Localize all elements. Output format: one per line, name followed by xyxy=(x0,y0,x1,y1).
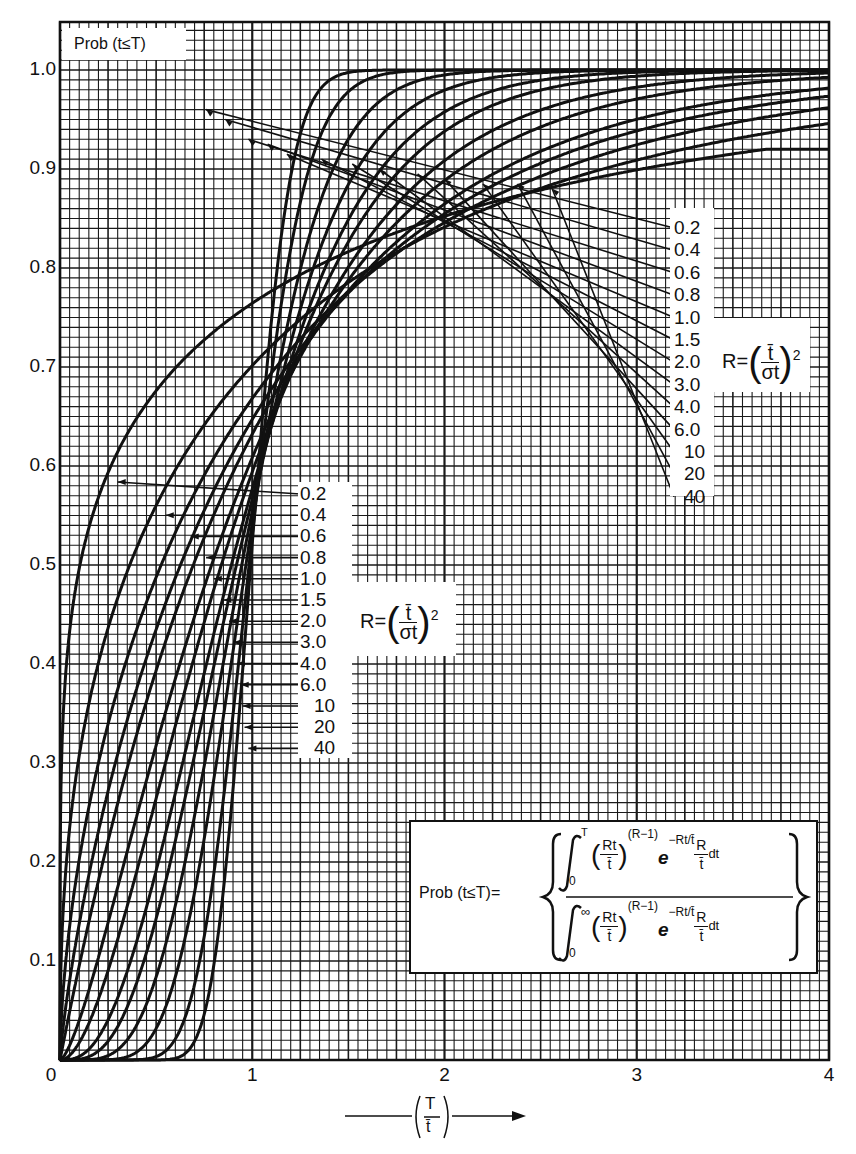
lower-r-definition: R=(t̄σt)2 xyxy=(352,582,456,656)
y-tick-0.2: 0.2 xyxy=(0,850,56,872)
numerator-expr: (Rtt̄)(R−1)e−Rt/t̄Rt̄dt xyxy=(591,836,719,873)
denominator-expr: (Rtt̄)(R−1)e−Rt/t̄Rt̄dt xyxy=(591,908,719,945)
x-label-num: T xyxy=(425,1094,435,1114)
base-num: Rt xyxy=(600,836,618,855)
y-tick-0.6: 0.6 xyxy=(0,454,56,476)
lower-r-label-2.0: 2.0 xyxy=(300,611,326,631)
lower-r-label-4.0: 4.0 xyxy=(300,654,326,674)
e-exponent: −Rt/t̄ xyxy=(669,905,695,919)
chart-canvas xyxy=(0,0,856,1154)
lower-r-label-0.2: 0.2 xyxy=(300,484,326,504)
upper-r-label-20: 20 xyxy=(684,464,705,484)
lower-r-label-0.4: 0.4 xyxy=(300,505,326,525)
upper-r-label-2.0: 2.0 xyxy=(674,352,700,372)
upper-r-label-0.8: 0.8 xyxy=(674,285,700,305)
lower-r-label-0.8: 0.8 xyxy=(300,548,326,568)
lower-r-label-1.0: 1.0 xyxy=(300,569,326,589)
x-tick-2: 2 xyxy=(430,1064,460,1086)
factor-num: R xyxy=(694,836,708,855)
upper-r-label-0.6: 0.6 xyxy=(674,263,700,283)
base-den: t̄ xyxy=(600,855,618,873)
dt: dt xyxy=(708,846,719,861)
dt: dt xyxy=(708,918,719,933)
y-tick-0.7: 0.7 xyxy=(0,355,56,377)
x-axis-label: T t̄ xyxy=(340,1088,530,1148)
upper-r-label-40: 40 xyxy=(684,487,705,507)
upper-r-label-3.0: 3.0 xyxy=(674,375,700,395)
base-den: t̄ xyxy=(600,927,618,945)
factor-num: R xyxy=(694,908,708,927)
lower-r-label-0.6: 0.6 xyxy=(300,526,326,546)
exponent: (R−1) xyxy=(628,899,658,913)
formula-lhs: Prob (t≤T)= xyxy=(419,884,500,902)
upper-r-label-10: 10 xyxy=(684,442,705,462)
x-label-right-paren xyxy=(444,1096,448,1138)
upper-r-label-1.5: 1.5 xyxy=(674,330,700,350)
lower-r-label-40: 40 xyxy=(314,738,335,758)
x-tick-4: 4 xyxy=(814,1064,844,1086)
y-tick-0.5: 0.5 xyxy=(0,553,56,575)
upper-r-label-1.0: 1.0 xyxy=(674,308,700,328)
factor-den: t̄ xyxy=(694,927,708,945)
e-symbol: e xyxy=(658,847,669,868)
y-axis-label: Prob (t≤T) xyxy=(62,28,186,60)
x-tick-0: 0 xyxy=(36,1064,66,1086)
upper-r-label-0.2: 0.2 xyxy=(674,218,700,238)
y-tick-0.4: 0.4 xyxy=(0,652,56,674)
base-num: Rt xyxy=(600,908,618,927)
r-def-exp: 2 xyxy=(793,347,801,363)
y-tick-1.0: 1.0 xyxy=(0,58,56,80)
right-arrow-icon xyxy=(512,1111,526,1121)
lower-limit-top: 0 xyxy=(569,874,576,888)
e-exponent: −Rt/t̄ xyxy=(669,833,695,847)
x-tick-3: 3 xyxy=(622,1064,652,1086)
upper-r-definition: R=(t̄σt)2 xyxy=(714,318,810,392)
y-tick-0.1: 0.1 xyxy=(0,949,56,971)
r-def-den: σt xyxy=(399,623,417,641)
r-def-lhs: R= xyxy=(722,350,748,372)
y-tick-0.9: 0.9 xyxy=(0,157,56,179)
factor-den: t̄ xyxy=(694,855,708,873)
y-tick-0.8: 0.8 xyxy=(0,256,56,278)
lower-r-label-6.0: 6.0 xyxy=(300,675,326,695)
lower-r-label-20: 20 xyxy=(314,717,335,737)
y-axis-label-text: Prob (t≤T) xyxy=(74,35,146,52)
exponent: (R−1) xyxy=(628,827,658,841)
lower-r-label-1.5: 1.5 xyxy=(300,590,326,610)
x-label-den: t̄ xyxy=(426,1118,430,1136)
x-tick-1: 1 xyxy=(237,1064,267,1086)
upper-limit-T: T xyxy=(581,826,588,838)
lower-limit-bottom: 0 xyxy=(569,946,576,960)
upper-r-label-6.0: 6.0 xyxy=(674,420,700,440)
upper-limit-inf: ∞ xyxy=(581,904,590,919)
x-label-left-paren xyxy=(416,1096,420,1138)
r-def-lhs: R= xyxy=(360,610,386,632)
r-def-den: σt xyxy=(761,363,779,381)
left-brace-icon xyxy=(543,834,561,960)
y-tick-0.3: 0.3 xyxy=(0,751,56,773)
e-symbol: e xyxy=(658,919,669,940)
upper-r-label-0.4: 0.4 xyxy=(674,240,700,260)
lower-r-label-3.0: 3.0 xyxy=(300,632,326,652)
formula-box: Prob (t≤T)= T 0 (Rtt̄)(R−1)e−Rt/t̄Rt̄dt … xyxy=(409,820,818,974)
r-def-exp: 2 xyxy=(431,607,439,623)
upper-r-label-4.0: 4.0 xyxy=(674,397,700,417)
lower-r-label-10: 10 xyxy=(314,696,335,716)
